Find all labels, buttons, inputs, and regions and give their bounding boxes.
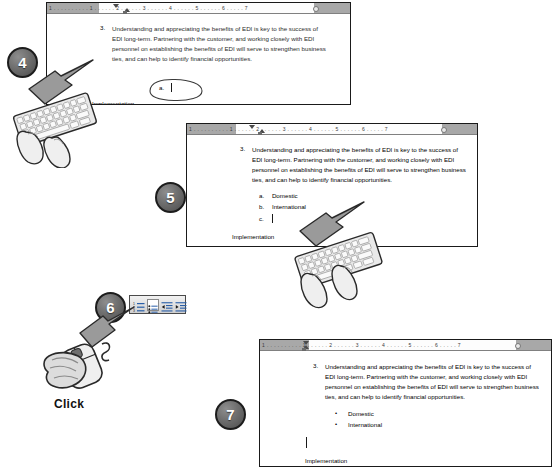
first-line-indent-marker[interactable]	[113, 4, 119, 8]
paragraph-text: Understanding and appreciating the benef…	[325, 362, 540, 402]
paragraph-text: Understanding and appreciating the benef…	[252, 145, 467, 185]
footer-text: Implementation	[305, 457, 347, 464]
word-document-panel-step7: 1 . . . . . . . . . . 1 . . . . . . 2 . …	[259, 339, 552, 467]
hand-on-mouse-illustration	[38, 330, 130, 402]
list-item-text: Domestic	[348, 410, 374, 417]
footer-text: Implementation	[232, 233, 274, 240]
bullet-icon: •	[335, 410, 337, 416]
text-cursor	[272, 214, 273, 223]
handdrawn-ellipse-annotation	[145, 78, 205, 102]
list-item-label: a.	[259, 192, 264, 199]
decrease-indent-button[interactable]	[161, 299, 173, 311]
document-ruler[interactable]: 1 . . . . . . . . . . 1 . . . . . . 2 . …	[47, 3, 350, 14]
document-ruler[interactable]: 1 . . . . . . . . . . 1 . . . . . . 2 . …	[260, 340, 551, 351]
illustration-canvas: 1 . . . . . . . . . . 1 . . . . . . 2 . …	[0, 0, 553, 468]
step-badge-5: 5	[155, 182, 186, 213]
keyboard-typing-hands-illustration-1	[8, 88, 100, 168]
text-cursor	[306, 437, 307, 448]
document-ruler[interactable]: 1 . . . . . . . . . . 1 . . . . . . 2 . …	[187, 124, 477, 135]
step-badge-7: 7	[215, 399, 246, 430]
text-cursor	[171, 83, 172, 92]
document-body[interactable]: 3. Understanding and appreciating the be…	[260, 351, 551, 466]
list-item: a.	[159, 83, 172, 92]
list-item-label: b.	[259, 203, 264, 210]
ruler-tick-labels: 1 . . . . . . . . . . 1 . . . . . . 2 . …	[187, 124, 477, 134]
list-item-label: a.	[159, 84, 164, 91]
list-item-label: c.	[259, 215, 264, 222]
ruler-tick-labels: 1 . . . . . . . . . . 1 . . . . . . 2 . …	[47, 3, 350, 13]
list-item: • Domestic	[335, 410, 374, 417]
paragraph-number: 3.	[240, 145, 245, 152]
list-item-text: Domestic	[272, 192, 298, 199]
right-indent-marker[interactable]	[441, 127, 447, 133]
list-item: a. Domestic	[259, 192, 298, 199]
step-number: 7	[226, 406, 234, 423]
list-item: • International	[335, 421, 382, 428]
first-line-indent-marker[interactable]	[249, 125, 255, 129]
list-item: c.	[259, 214, 273, 223]
step-number: 5	[166, 189, 174, 206]
keyboard-typing-hands-illustration-2	[288, 228, 388, 312]
bulleted-list-button[interactable]	[147, 299, 159, 311]
click-action-label: Click	[54, 397, 84, 411]
increase-indent-button[interactable]	[175, 299, 187, 311]
formatting-toolbar[interactable]: 1 2 3	[129, 295, 186, 314]
right-indent-marker[interactable]	[515, 343, 521, 349]
bullet-icon: •	[335, 421, 337, 427]
list-item-text: International	[348, 421, 382, 428]
paragraph-number: 3.	[100, 24, 105, 31]
paragraph-number: 3.	[313, 362, 318, 369]
paragraph-text: Understanding and appreciating the benef…	[112, 24, 327, 64]
right-indent-marker[interactable]	[313, 6, 319, 12]
